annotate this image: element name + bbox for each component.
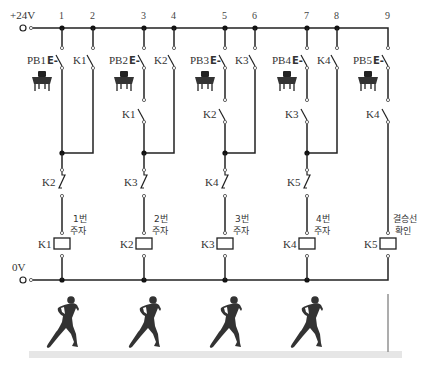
coil-label: K3 xyxy=(201,238,215,250)
pb4-label: PB4 xyxy=(272,54,291,66)
coil-note: 주자 xyxy=(152,226,169,236)
bottom-bus xyxy=(20,262,388,283)
coil-note: 결승선 xyxy=(393,214,417,224)
coil-label: K1 xyxy=(38,238,51,250)
coil-note: 1번 xyxy=(73,214,87,224)
pushbutton-icon xyxy=(114,71,134,91)
seal-contact-label: K2 xyxy=(154,54,167,66)
runner-figure xyxy=(47,296,79,348)
pushbutton-icon xyxy=(195,71,215,91)
pb5-actuator-symbol: E- xyxy=(373,55,384,66)
pb4-actuator-symbol: E- xyxy=(292,55,303,66)
interlock-contact-label: K1 xyxy=(122,108,135,120)
relay-coil xyxy=(380,238,396,249)
node-label: 1 xyxy=(59,10,64,21)
rung-1: PB1 E- K1 K2 K1 1번 주자 xyxy=(27,28,95,280)
seal-contact-label: K3 xyxy=(235,54,249,66)
coil-note: 주자 xyxy=(70,226,87,236)
interlock-contact-label: K2 xyxy=(203,108,216,120)
node-label: 6 xyxy=(252,10,257,21)
coil-note: 주자 xyxy=(314,226,331,236)
seal-contact-label: K1 xyxy=(73,54,86,66)
coil-note: 주자 xyxy=(233,226,250,236)
node-labels: 1 2 3 4 5 6 7 8 9 xyxy=(59,10,390,21)
node-label: 5 xyxy=(222,10,227,21)
pb3-label: PB3 xyxy=(190,54,209,66)
pb1-actuator-symbol: E- xyxy=(47,55,58,66)
nc-contact-label: K3 xyxy=(124,176,138,188)
pb1-label: PB1 xyxy=(27,54,46,66)
pb2-actuator-symbol: E- xyxy=(129,55,140,66)
rung-5: PB5 E- K4 K5 결승선 확인 xyxy=(353,40,417,262)
coil-label: K5 xyxy=(364,238,378,250)
runner-figure xyxy=(291,296,323,348)
top-bus xyxy=(20,25,388,40)
pb3-actuator-symbol: E- xyxy=(210,55,221,66)
runner-figure xyxy=(210,296,242,348)
interlock-contact-label: K4 xyxy=(366,108,380,120)
nc-contact-label: K2 xyxy=(42,176,55,188)
pushbutton-icon xyxy=(277,71,297,91)
coil-label: K4 xyxy=(283,238,297,250)
rung-4: PB4 E- K3 K4 K5 K4 4번 주자 xyxy=(272,28,339,280)
coil-label: K2 xyxy=(120,238,133,250)
coil-note: 4번 xyxy=(316,214,330,224)
node-label: 4 xyxy=(171,10,176,21)
rung-3: PB3 E- K2 K3 K4 K3 3번 주자 xyxy=(190,28,257,280)
coil-note: 3번 xyxy=(235,214,249,224)
node-label: 2 xyxy=(90,10,95,21)
node-label: 7 xyxy=(304,10,309,21)
coil-note: 확인 xyxy=(395,225,411,236)
node-label: 3 xyxy=(141,10,146,21)
runner-figure xyxy=(129,296,161,348)
relay-coil xyxy=(217,238,233,249)
interlock-contact-label: K3 xyxy=(285,108,299,120)
relay-coil xyxy=(136,238,152,249)
supply-positive-label: +24V xyxy=(10,9,35,21)
node-label: 9 xyxy=(385,10,390,21)
seal-contact-label: K4 xyxy=(317,54,331,66)
nc-contact-label: K5 xyxy=(287,176,301,188)
nc-contact-label: K4 xyxy=(205,176,219,188)
pb2-label: PB2 xyxy=(109,54,128,66)
rung-2: PB2 E- K1 K2 K3 K2 2번 주자 xyxy=(109,28,176,280)
pushbutton-icon xyxy=(32,71,52,91)
pb5-label: PB5 xyxy=(353,54,372,66)
pushbutton-icon xyxy=(358,71,378,91)
node-label: 8 xyxy=(334,10,339,21)
coil-note: 2번 xyxy=(154,214,168,224)
ladder-diagram: +24V 0V 1 2 3 4 5 6 7 8 9 PB1 xyxy=(0,0,431,366)
relay-coil xyxy=(299,238,315,249)
supply-negative-label: 0V xyxy=(12,261,26,273)
relay-coil xyxy=(54,238,70,249)
track xyxy=(29,351,402,358)
